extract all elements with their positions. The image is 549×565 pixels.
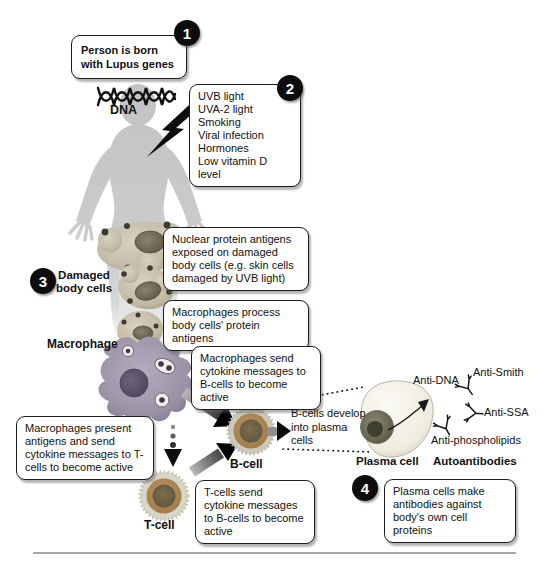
- step-1-number: 1: [183, 25, 191, 42]
- macrophage-label: Macrophage: [47, 338, 118, 351]
- step-3-number: 3: [39, 273, 47, 290]
- tcells-send-box: T-cells send cytokine messages to B-cell…: [195, 480, 315, 544]
- nuclear-antigens-box: Nuclear protein antigens exposed on dama…: [163, 227, 309, 291]
- plasma-cell-label: Plasma cell: [356, 455, 419, 468]
- step-1-badge: 1: [174, 20, 200, 46]
- step-3-badge: 3: [30, 268, 56, 294]
- bcells-develop-text: B-cells develop into plasma cells: [291, 407, 367, 448]
- step-2-number: 2: [286, 80, 294, 97]
- macrophages-present-box: Macrophages present antigens and send cy…: [16, 416, 154, 480]
- trigger-item: UVA-2 light: [198, 103, 292, 116]
- t-cell-label: T-cell: [144, 519, 175, 532]
- person-born-text: Person is born with Lupus genes: [81, 44, 174, 70]
- trigger-item: Low vitamin D level: [198, 155, 292, 181]
- step-4-badge: 4: [352, 475, 378, 501]
- dna-label: DNA: [110, 104, 137, 117]
- antibody-label-anti-smith: Anti-Smith: [473, 366, 524, 380]
- antibody-label-anti-phospholipids: Anti-phospholipids: [431, 434, 521, 448]
- antibody-icon: [464, 403, 484, 423]
- lupus-pathogenesis-diagram: Person is born with Lupus genes 1 UVB li…: [0, 0, 549, 565]
- step-2-badge: 2: [277, 75, 303, 101]
- autoantibodies-label: Autoantibodies: [433, 455, 517, 468]
- antibody-label-anti-dna: Anti-DNA: [413, 374, 459, 388]
- plasma-antibodies-box: Plasma cells make antibodies against bod…: [384, 479, 516, 543]
- dotted-arrow-macrophage-to-tcell-icon: [164, 425, 182, 467]
- macrophages-send-box: Macrophages send cytokine messages to B-…: [191, 346, 321, 410]
- step-4-number: 4: [361, 480, 369, 497]
- damaged-cells-label: Damaged body cells: [53, 269, 115, 295]
- trigger-item: Viral infection: [198, 129, 292, 142]
- plasma-cell: [361, 381, 434, 457]
- trigger-item: Smoking: [198, 116, 292, 129]
- person-born-box: Person is born with Lupus genes: [71, 35, 187, 79]
- b-cell-label: B-cell: [230, 458, 263, 471]
- antibody-label-anti-ssa: Anti-SSA: [484, 406, 529, 420]
- trigger-item: Hormones: [198, 142, 292, 155]
- macrophages-process-box: Macrophages process body cells' protein …: [163, 300, 309, 351]
